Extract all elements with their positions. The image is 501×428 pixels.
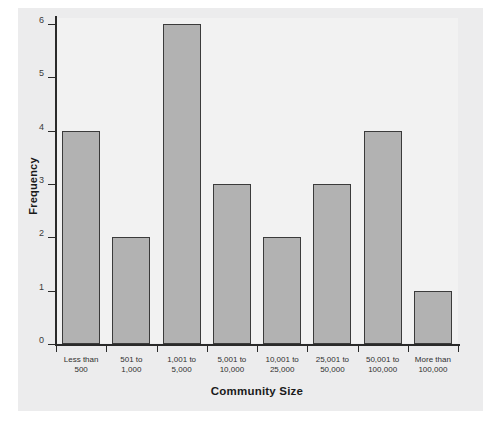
bar [364, 131, 402, 344]
y-axis-title: Frequency [27, 131, 39, 241]
x-axis-category-line: More than [408, 355, 458, 365]
x-axis-tick [257, 346, 258, 352]
x-axis-category-label: 50,001 to100,000 [358, 355, 408, 375]
x-axis-category-label: 1,001 to5,000 [157, 355, 207, 375]
x-axis-category-line: 1,000 [106, 365, 156, 375]
x-axis-tick [157, 346, 158, 352]
y-axis-tick-label: 1 [20, 287, 44, 288]
x-axis-category-line: 50,001 to [358, 355, 408, 365]
x-axis-category-label: 501 to1,000 [106, 355, 156, 375]
chart-figure: 0123456 Less than500501 to1,0001,001 to5… [0, 0, 501, 428]
y-axis-tick [48, 131, 55, 132]
x-axis-category-line: 10,001 to [257, 355, 307, 365]
x-axis-category-label: Less than500 [56, 355, 106, 375]
x-axis-category-label: 5,001 to10,000 [207, 355, 257, 375]
y-axis-tick [48, 24, 55, 25]
x-axis-tick [207, 346, 208, 352]
x-axis-category-line: 1,001 to [157, 355, 207, 365]
x-axis-category-label: More than100,000 [408, 355, 458, 375]
bar [163, 24, 201, 344]
x-axis-category-line: 100,000 [358, 365, 408, 375]
x-axis-tick [458, 346, 459, 352]
y-axis-tick [48, 291, 55, 292]
y-axis-tick-label: 0 [20, 340, 44, 341]
x-axis-category-label: 25,001 to50,000 [307, 355, 357, 375]
bar [263, 237, 301, 344]
x-axis-category-line: Less than [56, 355, 106, 365]
y-axis-tick [48, 237, 55, 238]
x-axis-tick [358, 346, 359, 352]
x-axis-title: Community Size [56, 385, 458, 397]
x-axis-tick [106, 346, 107, 352]
bar [213, 184, 251, 344]
x-axis-category-line: 5,000 [157, 365, 207, 375]
bar [313, 184, 351, 344]
y-axis-line [55, 16, 57, 346]
x-axis-tick [56, 346, 57, 352]
y-axis-tick [48, 344, 55, 345]
bar [62, 131, 100, 344]
x-axis-category-line: 500 [56, 365, 106, 375]
x-axis-tick [307, 346, 308, 352]
x-axis-category-line: 50,000 [307, 365, 357, 375]
x-axis-category-line: 100,000 [408, 365, 458, 375]
bar [112, 237, 150, 344]
y-axis-tick [48, 77, 55, 78]
y-axis-tick [48, 184, 55, 185]
x-axis-category-line: 25,000 [257, 365, 307, 375]
x-axis-category-line: 25,001 to [307, 355, 357, 365]
x-axis-category-line: 5,001 to [207, 355, 257, 365]
y-axis-tick-label: 6 [20, 20, 44, 21]
bar [414, 291, 452, 344]
x-axis-tick [408, 346, 409, 352]
x-axis-category-line: 10,000 [207, 365, 257, 375]
y-axis-tick-label: 4 [20, 127, 44, 128]
x-axis-category-label: 10,001 to25,000 [257, 355, 307, 375]
x-axis-category-line: 501 to [106, 355, 156, 365]
y-axis-tick-label: 5 [20, 73, 44, 74]
